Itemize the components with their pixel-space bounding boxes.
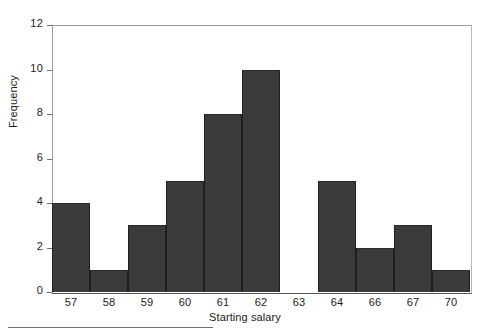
histogram-figure: 024681012 Frequency 57585960616263646667…	[0, 0, 490, 335]
x-axis-tick-label: 60	[165, 296, 205, 308]
histogram-bar	[394, 225, 432, 292]
y-axis-tick-label: 12	[30, 17, 43, 29]
y-axis-tick-label: 10	[30, 62, 43, 74]
x-axis-tick-label: 67	[393, 296, 433, 308]
y-axis-tick-label: 8	[37, 106, 43, 118]
histogram-bar	[52, 203, 90, 292]
histogram-bar	[432, 270, 470, 292]
y-axis-tick-label: 6	[37, 151, 43, 163]
y-axis-tick-mark	[47, 292, 52, 293]
x-axis-tick-label: 61	[203, 296, 243, 308]
y-axis-tick: 2	[0, 248, 52, 249]
y-axis-title: Frequency	[7, 18, 23, 128]
y-axis-tick: 0	[0, 292, 52, 293]
x-axis-tick-label: 59	[127, 296, 167, 308]
y-axis-tick-label: 4	[37, 195, 43, 207]
y-axis-tick-label: 2	[37, 240, 43, 252]
x-axis-tick-label: 64	[317, 296, 357, 308]
x-axis-tick-label: 57	[51, 296, 91, 308]
histogram-bar	[242, 70, 280, 293]
y-axis-tick: 4	[0, 203, 52, 204]
footer-divider	[8, 327, 213, 328]
x-axis-tick-label: 62	[241, 296, 281, 308]
x-axis-title: Starting salary	[0, 311, 490, 323]
histogram-bar	[128, 225, 166, 292]
histogram-bar	[90, 270, 128, 292]
histogram-bar	[356, 248, 394, 293]
y-axis-tick: 6	[0, 159, 52, 160]
bars-layer	[52, 25, 470, 292]
histogram-bar	[166, 181, 204, 292]
histogram-bar	[204, 114, 242, 292]
y-axis-tick-label: 0	[37, 284, 43, 296]
x-axis-tick-label: 63	[279, 296, 319, 308]
x-axis-tick-label: 58	[89, 296, 129, 308]
histogram-bar	[318, 181, 356, 292]
x-axis-tick-label: 66	[355, 296, 395, 308]
x-axis-tick-label: 70	[431, 296, 471, 308]
